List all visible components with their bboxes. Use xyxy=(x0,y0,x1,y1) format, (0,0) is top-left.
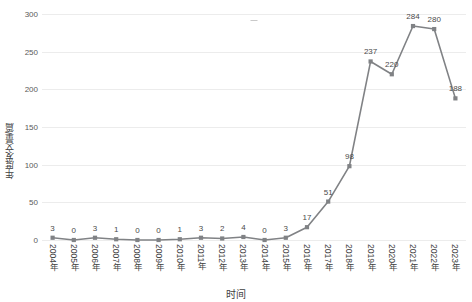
x-axis-tick-label: 2022年 xyxy=(428,244,440,272)
data-point-marker xyxy=(51,236,55,240)
y-axis-tick-label: 300 xyxy=(25,10,38,19)
line-series xyxy=(42,14,466,240)
data-point-marker xyxy=(157,238,161,242)
data-point-label: 0 xyxy=(135,226,139,235)
data-point-marker xyxy=(432,27,436,31)
x-axis-tick-label: 2005年 xyxy=(68,244,80,272)
y-axis-tick-label: 0 xyxy=(34,236,38,245)
data-point-label: 3 xyxy=(284,224,288,233)
data-point-marker xyxy=(178,237,182,241)
data-point-label: 188 xyxy=(449,84,462,93)
data-point-label: 0 xyxy=(156,226,160,235)
data-point-marker xyxy=(326,199,330,203)
data-point-marker xyxy=(72,238,76,242)
data-point-marker xyxy=(241,235,245,239)
x-axis-tick-label: 2004年 xyxy=(47,244,59,272)
data-point-label: 280 xyxy=(428,15,441,24)
x-axis-title: 时间 xyxy=(0,286,472,301)
data-point-marker xyxy=(284,236,288,240)
data-point-marker xyxy=(305,225,309,229)
x-axis-tick-label: 2008年 xyxy=(131,244,143,272)
data-point-label: 1 xyxy=(178,225,182,234)
x-axis-tick-label: 2021年 xyxy=(407,244,419,272)
x-axis-tick-label: 2014年 xyxy=(259,244,271,272)
data-point-label: 17 xyxy=(303,213,312,222)
data-point-marker xyxy=(135,238,139,242)
data-point-label: 4 xyxy=(241,223,245,232)
y-axis-tick-label: 150 xyxy=(25,123,38,132)
data-point-label: 3 xyxy=(93,224,97,233)
x-axis-tick-label: 2009年 xyxy=(153,244,165,272)
data-point-label: 0 xyxy=(72,226,76,235)
data-point-label: 2 xyxy=(220,224,224,233)
x-axis-tick-label: 2019年 xyxy=(365,244,377,272)
y-axis-tick-label: 100 xyxy=(25,160,38,169)
data-point-label: 1 xyxy=(114,225,118,234)
data-point-label: 237 xyxy=(364,47,377,56)
data-point-marker xyxy=(263,238,267,242)
x-axis-tick-label: 2016年 xyxy=(301,244,313,272)
x-axis-tick-label: 2018年 xyxy=(343,244,355,272)
data-point-marker xyxy=(93,236,97,240)
data-point-marker xyxy=(114,237,118,241)
data-point-marker xyxy=(411,24,415,28)
x-axis-tick-label: 2010年 xyxy=(174,244,186,272)
data-point-label: 98 xyxy=(345,152,354,161)
data-point-marker xyxy=(220,236,224,240)
x-axis-tick-label: 2020年 xyxy=(386,244,398,272)
chart-container: 年度发文量/篇 050100150200250300 3031001324031… xyxy=(0,0,472,302)
y-axis-tick-label: 250 xyxy=(25,47,38,56)
data-point-label: 3 xyxy=(50,224,54,233)
data-point-marker xyxy=(199,236,203,240)
data-point-label: 51 xyxy=(324,188,333,197)
series-line xyxy=(53,26,456,240)
x-axis-tick-label: 2006年 xyxy=(89,244,101,272)
x-axis-tick-label: 2013年 xyxy=(237,244,249,272)
x-axis-tick-label: 2011年 xyxy=(195,244,207,271)
y-axis-tick-label: 200 xyxy=(25,85,38,94)
x-axis-tick-label: 2012年 xyxy=(216,244,228,272)
data-point-marker xyxy=(390,72,394,76)
x-axis-tick-label: 2015年 xyxy=(280,244,292,272)
x-axis-tick-label: 2023年 xyxy=(449,244,461,272)
data-point-marker xyxy=(369,59,373,63)
data-point-marker xyxy=(453,96,457,100)
data-point-marker xyxy=(347,164,351,168)
plot-area: 050100150200250300 303100132403175198237… xyxy=(42,14,466,240)
data-point-label: 3 xyxy=(199,224,203,233)
x-axis-tick-label: 2017年 xyxy=(322,244,334,272)
gridline xyxy=(42,240,466,241)
y-axis-tick-label: 50 xyxy=(29,198,38,207)
data-point-label: 284 xyxy=(406,12,419,21)
x-axis-tick-label: 2007年 xyxy=(110,244,122,272)
data-point-label: 220 xyxy=(385,60,398,69)
y-axis-title: 年度发文量/篇 xyxy=(2,123,15,180)
data-point-label: 0 xyxy=(262,226,266,235)
